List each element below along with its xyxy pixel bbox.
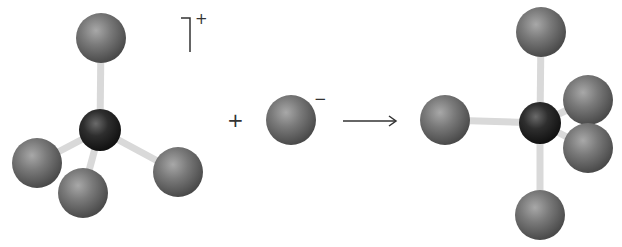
plus-sign: + bbox=[227, 110, 244, 130]
ligand-atom bbox=[420, 95, 470, 145]
ligand-atom bbox=[153, 147, 203, 197]
ligand-atom bbox=[563, 75, 613, 125]
reactant-cation-molecule bbox=[12, 13, 203, 218]
diagram-canvas bbox=[0, 0, 622, 247]
charge-bracket bbox=[181, 18, 190, 52]
central-atom bbox=[519, 102, 561, 144]
ligand-atom bbox=[516, 7, 566, 57]
ligand-atom bbox=[12, 138, 62, 188]
central-atom bbox=[79, 109, 121, 151]
anion-charge-label: − bbox=[314, 92, 327, 107]
ligand-atom bbox=[76, 13, 126, 63]
reaction-diagram: + + − bbox=[0, 0, 622, 247]
anion-atom bbox=[266, 95, 316, 145]
ligand-atom bbox=[515, 190, 565, 240]
ligand-atom bbox=[563, 123, 613, 173]
ligand-atom bbox=[58, 168, 108, 218]
reaction-arrow bbox=[343, 116, 396, 126]
product-molecule bbox=[420, 7, 613, 240]
reactant-anion bbox=[266, 95, 316, 145]
cation-charge-label: + bbox=[195, 12, 208, 27]
